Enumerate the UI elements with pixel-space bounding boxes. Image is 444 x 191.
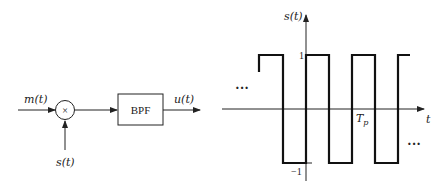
square-wave-plot: s(t) t 1 −1 Tp ··· ···: [222, 10, 431, 181]
input-label: m(t): [24, 93, 47, 106]
block-diagram: m(t) × s(t) BPF u(t): [18, 93, 200, 169]
carrier-label: s(t): [56, 156, 75, 169]
tick-low-label: −1: [291, 166, 302, 177]
x-axis-label: t: [426, 113, 431, 126]
ellipsis-left: ···: [235, 81, 249, 96]
filter-label: BPF: [131, 104, 151, 116]
y-axis-label: s(t): [284, 10, 303, 23]
tick-high-label: 1: [299, 50, 304, 61]
ellipsis-right: ···: [407, 137, 421, 152]
diagram-canvas: m(t) × s(t) BPF u(t) s(t) t 1 −1 Tp ··· …: [0, 0, 444, 191]
output-label: u(t): [174, 93, 194, 106]
period-label: Tp: [356, 112, 368, 127]
multiply-icon: ×: [62, 105, 68, 116]
period-subscript: p: [363, 118, 368, 127]
